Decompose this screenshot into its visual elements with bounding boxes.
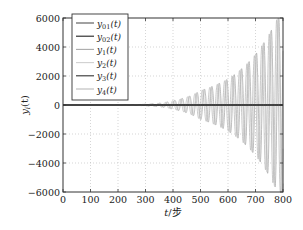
x-tick-label: 600 <box>219 194 237 205</box>
x-axis-label: t/步 <box>164 207 181 218</box>
y-tick-label: 2000 <box>36 71 60 82</box>
legend: y01(t)y02(t)y1(t)y2(t)y3(t)y4(t) <box>72 14 128 100</box>
y-tick-label: 0 <box>54 100 60 111</box>
x-tick-label: 500 <box>191 194 209 205</box>
y-tick-label: 4000 <box>36 42 60 53</box>
y-tick-label: −4000 <box>28 158 60 169</box>
y-tick-label: 6000 <box>36 13 60 24</box>
x-tick-label: 400 <box>164 194 182 205</box>
y-tick-label: −6000 <box>28 187 60 198</box>
y-tick-labels: 6000400020000−2000−4000−6000 <box>28 13 60 198</box>
x-tick-label: 100 <box>81 194 99 205</box>
x-tick-labels: 0100200300400500600700800 <box>60 194 292 205</box>
y-tick-label: −2000 <box>28 129 60 140</box>
y-axis-label: yi(t) <box>19 95 32 116</box>
x-tick-label: 200 <box>109 194 127 205</box>
x-tick-label: 800 <box>274 194 292 205</box>
x-tick-label: 0 <box>60 194 66 205</box>
x-tick-label: 300 <box>136 194 154 205</box>
line-chart: 0100200300400500600700800 6000400020000−… <box>0 0 303 230</box>
x-tick-label: 700 <box>246 194 264 205</box>
